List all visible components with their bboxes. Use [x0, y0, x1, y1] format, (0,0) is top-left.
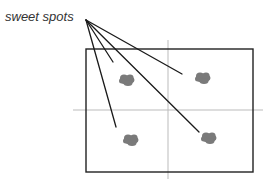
sweet-spot-top-left	[119, 75, 135, 87]
leader-line-bottom-right	[86, 20, 199, 132]
sweet-spot-top-right	[195, 73, 211, 85]
crosshair	[73, 40, 263, 179]
sweet-spot-bottom-left	[123, 135, 139, 147]
leader-lines	[86, 20, 199, 132]
sweet-spots-diagram	[0, 0, 273, 179]
sweet-spot-bottom-right	[201, 133, 217, 145]
leader-line-bottom-left	[86, 20, 116, 127]
leader-line-top-left	[86, 20, 113, 62]
